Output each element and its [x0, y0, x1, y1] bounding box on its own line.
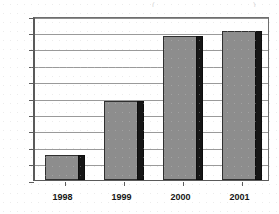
bar-1998: [45, 155, 85, 180]
y-axis-tick: [29, 149, 34, 150]
x-axis-tick: [65, 182, 66, 186]
bar-face: [104, 101, 137, 180]
bar-face: [45, 155, 78, 180]
y-axis-tick: [29, 50, 34, 51]
y-axis-tick: [29, 182, 34, 183]
bar-shadow-edge: [196, 36, 203, 180]
bar-face: [222, 31, 255, 180]
x-axis-label-1998: 1998: [33, 192, 92, 202]
bar-shadow-edge: [255, 31, 262, 180]
y-axis-tick: [29, 18, 34, 19]
y-axis-tick: [29, 165, 34, 166]
bar-shadow-edge: [137, 101, 144, 180]
x-axis-tick: [242, 182, 243, 186]
y-axis-tick: [29, 132, 34, 133]
x-axis-tick: [183, 182, 184, 186]
gridline: [35, 18, 268, 19]
bar-chart: ( ) 150160170180190200210220230240250 19…: [0, 0, 279, 214]
bar-face: [163, 36, 196, 180]
cropped-title-artifact-right: ): [253, 0, 257, 7]
bar-1999: [104, 101, 144, 180]
y-axis-tick: [29, 67, 34, 68]
cropped-title-artifact-left: (: [152, 0, 156, 7]
y-axis-tick: [29, 100, 34, 101]
y-axis-tick: [29, 116, 34, 117]
y-axis-tick: [29, 83, 34, 84]
bar-2001: [222, 31, 262, 180]
x-axis-label-2001: 2001: [210, 192, 269, 202]
x-axis-label-1999: 1999: [92, 192, 151, 202]
bar-shadow-edge: [78, 155, 85, 180]
plot-area: [33, 17, 269, 181]
x-axis-label-2000: 2000: [151, 192, 210, 202]
bar-2000: [163, 36, 203, 180]
x-axis-tick: [124, 182, 125, 186]
y-axis-tick: [29, 34, 34, 35]
